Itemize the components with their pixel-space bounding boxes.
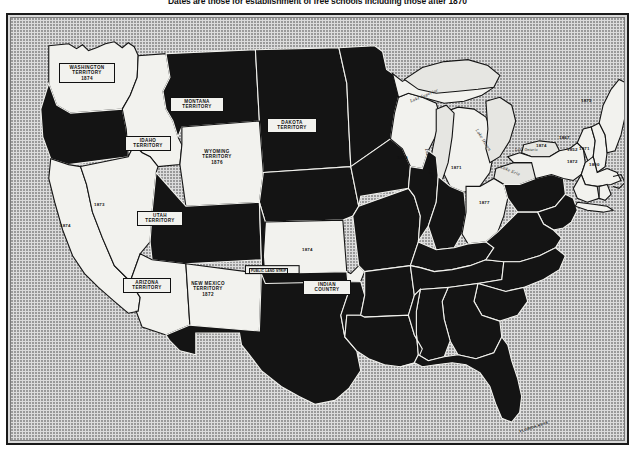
date-vermont: 1867 — [559, 135, 570, 140]
date-connecticut: 1872 — [567, 159, 578, 164]
newmexico-line1: NEW MEXICO — [191, 281, 225, 286]
arizona-line2: TERRITORY — [132, 285, 161, 290]
region-nebraska — [259, 167, 358, 222]
label-montana-territory: MONTANA TERRITORY — [170, 97, 224, 112]
dakota-line2: TERRITORY — [277, 125, 306, 130]
date-nevada: 1873 — [94, 202, 105, 207]
washington-line2: TERRITORY — [72, 70, 101, 75]
utah-line1: UTAH — [153, 213, 167, 218]
newmexico-date: 1872 — [202, 292, 214, 297]
newmexico-line2: TERRITORY — [193, 286, 222, 291]
wyoming-line1: WYOMING — [204, 149, 229, 154]
label-new-mexico-territory: NEW MEXICO TERRITORY 1872 — [178, 280, 238, 298]
region-arkansas — [361, 266, 415, 318]
label-wyoming-territory: WYOMING TERRITORY 1876 — [189, 148, 245, 166]
label-dakota-territory: DAKOTA TERRITORY — [267, 118, 317, 133]
region-rhode-island — [599, 184, 611, 200]
label-idaho-territory: IDAHO TERRITORY — [125, 136, 171, 151]
montana-line2: TERRITORY — [182, 104, 211, 109]
date-rhode-island: 1800 — [589, 162, 600, 167]
date-maine: 1875 — [581, 98, 592, 103]
date-california: 1874 — [60, 223, 71, 228]
label-indian-country: INDIAN COUNTRY — [303, 280, 351, 295]
region-dakota-territory — [255, 48, 350, 173]
lake-superior — [404, 60, 499, 94]
wyoming-date: 1876 — [211, 160, 223, 165]
idaho-line1: IDAHO — [140, 138, 157, 143]
arizona-line1: ARIZONA — [135, 280, 158, 285]
date-michigan: 1871 — [451, 165, 462, 170]
date-new-hampshire: 1871 — [579, 146, 590, 151]
region-missouri — [353, 188, 421, 271]
indian-line2: COUNTRY — [315, 287, 340, 292]
date-kansas: 1874 — [302, 247, 313, 252]
label-utah-territory: UTAH TERRITORY — [137, 211, 183, 226]
utah-line2: TERRITORY — [145, 218, 174, 223]
label-washington-territory: WASHINGTON TERRITORY 1874 — [59, 63, 115, 83]
date-ohio: 1877 — [479, 200, 490, 205]
region-long-island — [575, 202, 613, 212]
label-public-land-strip: PUBLIC LAND STRIP — [249, 268, 288, 274]
washington-line1: WASHINGTON — [69, 65, 104, 70]
label-arizona-territory: ARIZONA TERRITORY — [123, 278, 171, 293]
montana-line1: MONTANA — [184, 99, 210, 104]
date-massachusetts: 1852 — [567, 147, 578, 152]
lake-huron — [486, 97, 516, 162]
map-canvas-background: .fill { fill:#141414; stroke:#f2f2ee; st… — [11, 18, 624, 440]
indian-line1: INDIAN — [318, 282, 336, 287]
map-frame: .fill { fill:#141414; stroke:#f2f2ee; st… — [6, 13, 629, 445]
dakota-line1: DAKOTA — [281, 120, 302, 125]
idaho-line2: TERRITORY — [133, 143, 162, 148]
washington-date: 1874 — [81, 76, 93, 81]
wyoming-line2: TERRITORY — [202, 154, 231, 159]
figure-title: Dates are those for establishment of fre… — [0, 0, 635, 7]
date-wisconsin: 1879 — [397, 155, 408, 160]
lake-ontario-label: Lake Ontario — [515, 148, 538, 152]
